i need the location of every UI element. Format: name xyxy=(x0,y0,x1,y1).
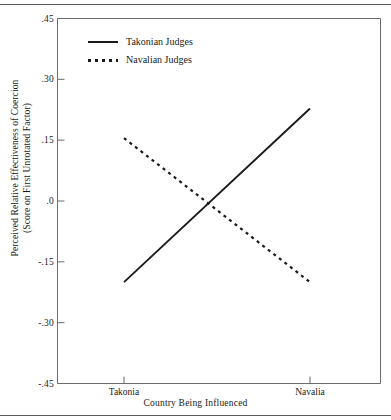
x-tick-label-takonia: Takonia xyxy=(109,387,139,398)
legend-swatch-solid-line-icon xyxy=(88,36,118,48)
legend-item-takonian-judges: Takonian Judges xyxy=(88,33,268,51)
legend-label-navalian-judges: Navalian Judges xyxy=(126,54,192,66)
legend-item-navalian-judges: Navalian Judges xyxy=(88,51,268,69)
x-axis-title: Country Being Influenced xyxy=(0,398,391,408)
legend-swatch-dotted-line-icon xyxy=(88,54,118,66)
line-chart-figure: .45 .30 .15 .0 -.15 -.30 -.45 Takonia Na… xyxy=(0,0,391,420)
legend-label-takonian-judges: Takonian Judges xyxy=(126,36,193,48)
chart-legend: Takonian Judges Navalian Judges xyxy=(88,33,268,69)
x-tick-label-navalia: Navalia xyxy=(295,387,325,398)
